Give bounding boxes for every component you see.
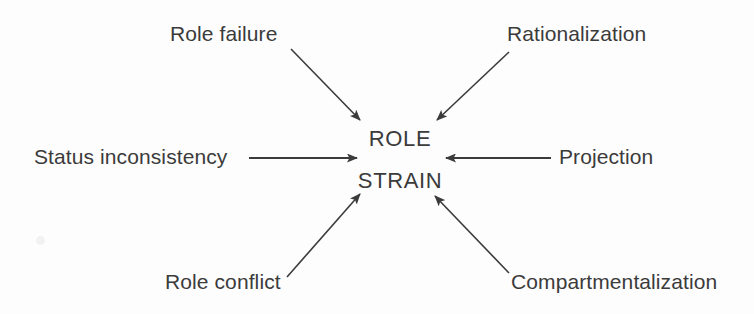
node-label-role-failure: Role failure xyxy=(170,23,277,44)
node-label-rationalization: Rationalization xyxy=(507,23,646,44)
node-label-status-inconsistency: Status inconsistency xyxy=(34,146,227,167)
arrow-role-conflict xyxy=(287,194,360,277)
center-label-line2: STRAIN xyxy=(358,170,442,192)
role-strain-diagram: ROLE STRAIN Role failure Rationalization… xyxy=(0,0,754,314)
arrow-compartmentalization xyxy=(435,196,509,273)
node-label-role-conflict: Role conflict xyxy=(165,271,281,292)
arrow-rationalization xyxy=(437,52,509,120)
center-node-role-strain: ROLE STRAIN xyxy=(338,128,462,192)
scan-artifact xyxy=(36,236,45,245)
node-label-compartmentalization: Compartmentalization xyxy=(511,271,717,292)
center-label-line1: ROLE xyxy=(369,128,431,150)
node-label-projection: Projection xyxy=(559,146,653,167)
arrow-role-failure xyxy=(291,49,360,120)
